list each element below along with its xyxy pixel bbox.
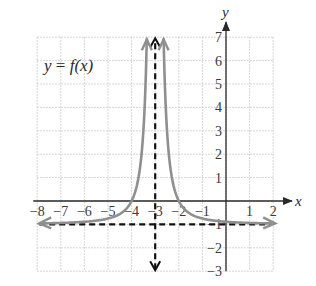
x-tick-label: 2 bbox=[270, 204, 277, 219]
function-label-eq: = bbox=[52, 56, 70, 75]
y-tick-label: −3 bbox=[207, 264, 222, 279]
x-tick-label: −4 bbox=[124, 204, 139, 219]
function-label-y: y bbox=[42, 56, 52, 75]
y-tick-label: 5 bbox=[215, 77, 222, 92]
y-tick-label: 7 bbox=[215, 30, 222, 45]
y-tick-label: 3 bbox=[215, 124, 222, 139]
x-tick-label: −6 bbox=[77, 204, 92, 219]
y-tick-label: 1 bbox=[215, 171, 222, 186]
x-tick-label: −2 bbox=[171, 204, 186, 219]
y-tick-labels: 7654321−1−2−3 bbox=[207, 30, 222, 279]
x-axis-label: x bbox=[294, 193, 302, 209]
y-tick-label: 4 bbox=[215, 100, 222, 115]
function-label-arg: (x) bbox=[74, 56, 93, 75]
x-tick-labels: −8−7−6−5−4−3−2−112 bbox=[30, 204, 277, 219]
function-label: y = f(x) bbox=[42, 56, 94, 75]
y-tick-label: 2 bbox=[215, 147, 222, 162]
y-axis-label: y bbox=[220, 4, 229, 20]
y-tick-label: −2 bbox=[207, 241, 222, 256]
x-tick-label: 1 bbox=[246, 204, 253, 219]
x-tick-label: −8 bbox=[30, 204, 45, 219]
y-tick-label: 6 bbox=[215, 54, 222, 69]
function-graph: −8−7−6−5−4−3−2−112 7654321−1−2−3 x y y =… bbox=[0, 0, 316, 286]
x-tick-label: −7 bbox=[53, 204, 68, 219]
